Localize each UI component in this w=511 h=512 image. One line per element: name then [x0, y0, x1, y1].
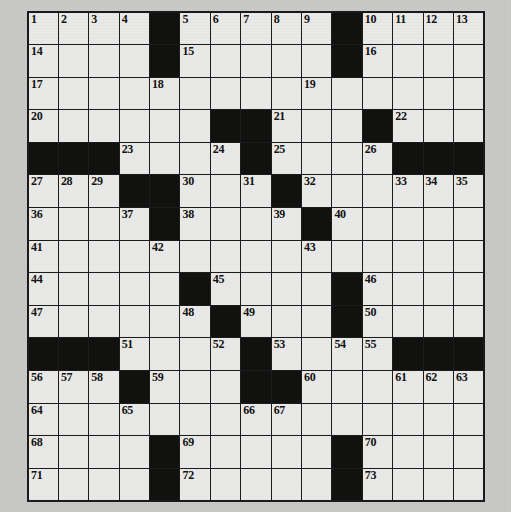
crossword-cell[interactable]	[89, 45, 119, 78]
crossword-cell[interactable]	[423, 208, 453, 241]
crossword-cell[interactable]	[393, 468, 423, 501]
crossword-cell[interactable]: 28	[58, 175, 88, 208]
crossword-cell[interactable]	[119, 240, 149, 273]
crossword-cell[interactable]	[453, 468, 483, 501]
crossword-cell[interactable]	[241, 436, 271, 469]
crossword-cell[interactable]	[58, 45, 88, 78]
crossword-cell[interactable]: 14	[28, 45, 58, 78]
crossword-cell[interactable]	[393, 273, 423, 306]
crossword-cell[interactable]	[150, 305, 180, 338]
crossword-cell[interactable]	[302, 305, 332, 338]
crossword-cell[interactable]	[453, 436, 483, 469]
crossword-cell[interactable]: 27	[28, 175, 58, 208]
crossword-cell[interactable]: 36	[28, 208, 58, 241]
crossword-cell[interactable]	[423, 240, 453, 273]
crossword-cell[interactable]: 32	[302, 175, 332, 208]
crossword-cell[interactable]: 20	[28, 110, 58, 143]
crossword-cell[interactable]: 65	[119, 403, 149, 436]
crossword-cell[interactable]: 71	[28, 468, 58, 501]
crossword-cell[interactable]	[423, 273, 453, 306]
crossword-cell[interactable]: 11	[393, 12, 423, 45]
crossword-cell[interactable]	[362, 208, 392, 241]
crossword-cell[interactable]	[119, 305, 149, 338]
crossword-cell[interactable]	[119, 110, 149, 143]
crossword-cell[interactable]: 16	[362, 45, 392, 78]
crossword-cell[interactable]	[58, 77, 88, 110]
crossword-cell[interactable]: 57	[58, 371, 88, 404]
crossword-cell[interactable]: 42	[150, 240, 180, 273]
crossword-cell[interactable]: 15	[180, 45, 210, 78]
crossword-cell[interactable]	[58, 240, 88, 273]
crossword-cell[interactable]	[453, 273, 483, 306]
crossword-cell[interactable]	[241, 208, 271, 241]
crossword-cell[interactable]: 51	[119, 338, 149, 371]
crossword-cell[interactable]	[362, 240, 392, 273]
crossword-cell[interactable]: 60	[302, 371, 332, 404]
crossword-cell[interactable]: 22	[393, 110, 423, 143]
crossword-cell[interactable]	[89, 468, 119, 501]
crossword-cell[interactable]: 25	[271, 142, 301, 175]
crossword-cell[interactable]	[302, 468, 332, 501]
crossword-cell[interactable]	[89, 240, 119, 273]
crossword-cell[interactable]: 44	[28, 273, 58, 306]
crossword-cell[interactable]	[58, 436, 88, 469]
crossword-cell[interactable]: 48	[180, 305, 210, 338]
crossword-cell[interactable]	[241, 273, 271, 306]
crossword-cell[interactable]	[393, 305, 423, 338]
crossword-cell[interactable]	[332, 175, 362, 208]
crossword-cell[interactable]: 23	[119, 142, 149, 175]
crossword-cell[interactable]	[58, 273, 88, 306]
crossword-cell[interactable]	[302, 403, 332, 436]
crossword-cell[interactable]	[210, 468, 240, 501]
crossword-cell[interactable]	[332, 371, 362, 404]
crossword-cell[interactable]	[362, 175, 392, 208]
crossword-cell[interactable]	[393, 208, 423, 241]
crossword-cell[interactable]: 34	[423, 175, 453, 208]
crossword-cell[interactable]	[58, 403, 88, 436]
crossword-cell[interactable]: 52	[210, 338, 240, 371]
crossword-cell[interactable]	[362, 77, 392, 110]
crossword-cell[interactable]: 70	[362, 436, 392, 469]
crossword-cell[interactable]	[453, 403, 483, 436]
crossword-cell[interactable]	[453, 208, 483, 241]
crossword-cell[interactable]: 1	[28, 12, 58, 45]
crossword-cell[interactable]	[241, 468, 271, 501]
crossword-cell[interactable]	[180, 240, 210, 273]
crossword-cell[interactable]: 17	[28, 77, 58, 110]
crossword-cell[interactable]	[58, 468, 88, 501]
crossword-cell[interactable]	[150, 338, 180, 371]
crossword-cell[interactable]	[393, 436, 423, 469]
crossword-cell[interactable]	[393, 77, 423, 110]
crossword-cell[interactable]: 61	[393, 371, 423, 404]
crossword-cell[interactable]	[210, 208, 240, 241]
crossword-cell[interactable]: 21	[271, 110, 301, 143]
crossword-grid[interactable]: 1234567891011121314151617181920212223242…	[27, 11, 485, 502]
crossword-cell[interactable]	[393, 240, 423, 273]
crossword-cell[interactable]	[271, 468, 301, 501]
crossword-cell[interactable]	[210, 45, 240, 78]
crossword-cell[interactable]: 63	[453, 371, 483, 404]
crossword-cell[interactable]: 40	[332, 208, 362, 241]
crossword-cell[interactable]	[119, 77, 149, 110]
crossword-cell[interactable]: 19	[302, 77, 332, 110]
crossword-cell[interactable]	[180, 403, 210, 436]
crossword-cell[interactable]	[362, 403, 392, 436]
crossword-cell[interactable]	[302, 110, 332, 143]
crossword-cell[interactable]	[150, 110, 180, 143]
crossword-cell[interactable]	[271, 436, 301, 469]
crossword-cell[interactable]: 24	[210, 142, 240, 175]
crossword-cell[interactable]: 41	[28, 240, 58, 273]
crossword-cell[interactable]: 38	[180, 208, 210, 241]
crossword-cell[interactable]	[210, 371, 240, 404]
crossword-cell[interactable]: 9	[302, 12, 332, 45]
crossword-cell[interactable]	[150, 403, 180, 436]
crossword-cell[interactable]	[271, 305, 301, 338]
crossword-cell[interactable]	[393, 45, 423, 78]
crossword-cell[interactable]	[89, 110, 119, 143]
crossword-cell[interactable]: 50	[362, 305, 392, 338]
crossword-cell[interactable]	[332, 110, 362, 143]
crossword-cell[interactable]: 54	[332, 338, 362, 371]
crossword-cell[interactable]	[210, 403, 240, 436]
crossword-cell[interactable]: 33	[393, 175, 423, 208]
crossword-cell[interactable]: 29	[89, 175, 119, 208]
